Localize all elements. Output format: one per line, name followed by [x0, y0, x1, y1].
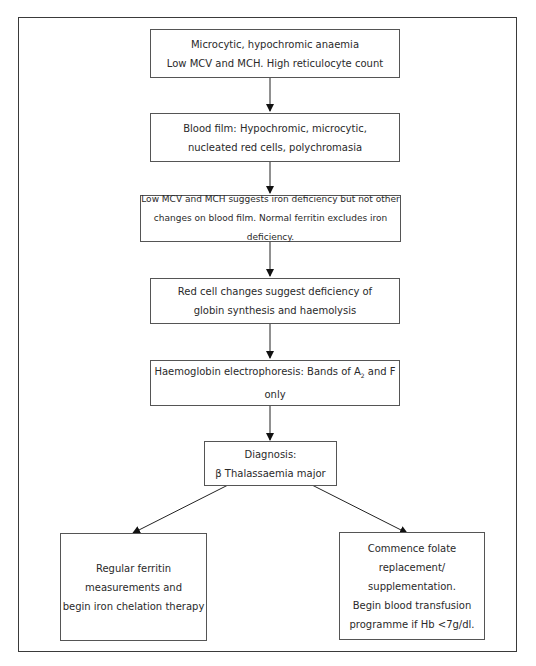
node-text: Microcytic, hypochromic anaemia — [191, 35, 359, 54]
node-text: Low MCV and MCH. High reticulocyte count — [167, 54, 383, 73]
node-microcytic-anaemia: Microcytic, hypochromic anaemia Low MCV … — [150, 29, 400, 78]
node-text: Diagnosis: — [245, 445, 297, 464]
node-iron-deficiency-excluded: Low MCV and MCH suggests iron deficiency… — [140, 195, 401, 242]
node-text: Low MCV and MCH suggests iron deficiency… — [141, 190, 399, 209]
node-text: Begin blood transfusion — [353, 596, 472, 615]
arrow-n6-n7 — [133, 485, 228, 533]
node-text: programme if Hb <7g/dl. — [349, 615, 474, 634]
node-electrophoresis: Haemoglobin electrophoresis: Bands of A2… — [150, 360, 400, 406]
node-text: globin synthesis and haemolysis — [194, 301, 357, 320]
node-diagnosis: Diagnosis: β Thalassaemia major — [204, 441, 337, 486]
node-iron-chelation: Regular ferritin measurements and begin … — [60, 533, 207, 641]
node-text: measurements and — [85, 578, 182, 597]
node-globin-deficiency: Red cell changes suggest deficiency of g… — [150, 278, 400, 324]
node-text: Blood film: Hypochromic, microcytic, — [183, 119, 367, 138]
node-text: β Thalassaemia major — [215, 464, 325, 483]
node-text: begin iron chelation therapy — [63, 597, 205, 616]
node-text: Commence folate replacement/ — [340, 539, 484, 577]
node-text: Haemoglobin electrophoresis: Bands of A2… — [151, 362, 399, 404]
node-text: Regular ferritin — [96, 559, 171, 578]
node-text-part: Haemoglobin electrophoresis: Bands of A — [154, 366, 360, 377]
node-folate-transfusion: Commence folate replacement/ supplementa… — [339, 532, 485, 640]
node-text: nucleated red cells, polychromasia — [188, 138, 362, 157]
node-text: supplementation. — [368, 577, 456, 596]
node-text: changes on blood film. Normal ferritin e… — [141, 209, 400, 247]
arrow-n6-n8 — [312, 485, 407, 533]
node-text: Red cell changes suggest deficiency of — [178, 282, 372, 301]
node-blood-film: Blood film: Hypochromic, microcytic, nuc… — [150, 113, 400, 162]
